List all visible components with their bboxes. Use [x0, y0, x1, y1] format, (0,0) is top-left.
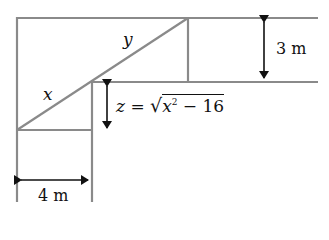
sqrt-icon: √ [150, 94, 162, 116]
radicand-x: x [162, 96, 172, 116]
radicand-rest: − 16 [177, 96, 224, 116]
label-3m: 3 m [276, 41, 306, 57]
z-variable: z [116, 96, 125, 116]
equals-sign: = [130, 96, 144, 116]
label-4m: 4 m [38, 188, 68, 204]
label-y: y [123, 31, 133, 48]
label-x: x [43, 86, 53, 103]
radicand: x2 − 16 [162, 94, 224, 116]
label-z-equation: z = √x2 − 16 [116, 96, 224, 115]
